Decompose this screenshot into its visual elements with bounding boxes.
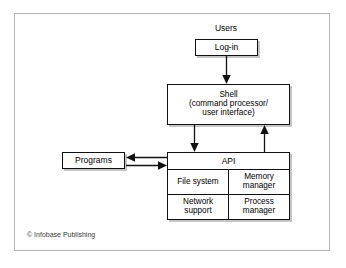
shell-box: Shell (command processor/ user interface… [167,84,290,125]
login-box-label: Log-in [215,43,239,52]
api-cell-file-system: File system [168,170,229,194]
api-block: API File system Memory manager Network s… [167,152,290,220]
diagram-canvas: Users Log-in Shell (command processor/ u… [0,0,346,268]
publisher-credit: © Infobase Publishing [27,231,95,238]
api-cell-file-system-line-1: File system [177,178,218,187]
api-cell-network-support: Network support [168,195,229,219]
programs-box: Programs [62,152,125,169]
api-header: API [168,153,289,170]
api-cell-network-support-line-2: support [183,207,213,216]
shell-box-line-3: user interface) [202,109,254,118]
programs-box-label: Programs [75,156,112,165]
api-header-label: API [222,156,236,166]
login-box: Log-in [195,39,258,56]
api-cell-process-manager: Process manager [229,195,289,219]
api-cell-memory-manager: Memory manager [229,170,289,194]
api-cell-process-manager-line-2: manager [243,207,275,216]
users-label: Users [186,24,266,33]
api-row-top: File system Memory manager [168,170,289,195]
api-row-bottom: Network support Process manager [168,195,289,219]
api-cell-memory-manager-line-2: manager [243,182,275,191]
